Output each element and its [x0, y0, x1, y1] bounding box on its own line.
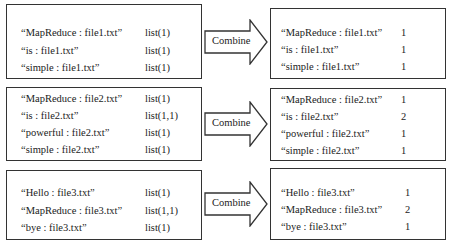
kv-value: 1: [401, 44, 406, 56]
combine-output-box-file2: “MapReduce : file2.txt” 1 “is : file2.tx…: [270, 88, 446, 161]
kv-value: list(1): [145, 222, 170, 234]
combine-label: Combine: [212, 35, 251, 46]
kv-value: list(1,1): [145, 205, 178, 217]
kv-value: 1: [401, 61, 406, 73]
kv-value: 2: [401, 111, 406, 123]
kv-key: “MapReduce : file1.txt”: [281, 27, 382, 39]
map-output-box-file1: “MapReduce : file1.txt” list(1) “is : fi…: [6, 4, 202, 79]
combine-label: Combine: [212, 197, 251, 208]
kv-value: 1: [401, 27, 406, 39]
combine-output-box-file3: “Hello : file3.txt” 1 “MapReduce : file3…: [270, 168, 446, 240]
kv-key: “powerful : file2.txt”: [21, 127, 109, 139]
kv-value: list(1): [145, 93, 170, 105]
kv-key: “Hello : file3.txt”: [281, 187, 355, 199]
kv-key: “is : file2.txt”: [21, 110, 78, 122]
kv-value: 1: [405, 221, 410, 233]
kv-key: “MapReduce : file1.txt”: [21, 27, 122, 39]
kv-key: “Hello : file3.txt”: [21, 187, 95, 199]
combine-label: Combine: [212, 117, 251, 128]
kv-value: 1: [401, 94, 406, 106]
kv-key: “bye : file3.txt”: [281, 221, 347, 233]
kv-value: 1: [405, 187, 410, 199]
kv-key: “bye : file3.txt”: [21, 222, 87, 234]
combine-arrow: Combine: [204, 19, 268, 65]
kv-key: “MapReduce : file2.txt”: [21, 93, 122, 105]
kv-key: “simple : file2.txt”: [21, 144, 99, 156]
kv-value: 2: [405, 204, 410, 216]
kv-key: “powerful : file2.txt”: [281, 128, 369, 140]
kv-value: list(1): [145, 127, 170, 139]
kv-key: “is : file1.txt”: [281, 44, 338, 56]
kv-key: “simple : file1.txt”: [21, 62, 99, 74]
kv-value: list(1,1): [145, 110, 178, 122]
combine-arrow: Combine: [204, 181, 268, 227]
kv-key: “simple : file2.txt”: [281, 145, 359, 157]
kv-key: “MapReduce : file3.txt”: [281, 204, 382, 216]
kv-value: 1: [401, 128, 406, 140]
combine-arrow: Combine: [204, 101, 268, 147]
kv-key: “MapReduce : file3.txt”: [21, 205, 122, 217]
kv-value: list(1): [145, 27, 170, 39]
kv-value: list(1): [145, 45, 170, 57]
kv-key: “MapReduce : file2.txt”: [281, 94, 382, 106]
kv-value: 1: [401, 145, 406, 157]
kv-value: list(1): [145, 144, 170, 156]
kv-key: “is : file1.txt”: [21, 45, 78, 57]
map-output-box-file3: “Hello : file3.txt” list(1) “MapReduce :…: [6, 170, 202, 240]
kv-value: list(1): [145, 187, 170, 199]
combine-output-box-file1: “MapReduce : file1.txt” 1 “is : file1.tx…: [270, 8, 446, 79]
kv-key: “simple : file1.txt”: [281, 61, 359, 73]
kv-key: “is : file2.txt”: [281, 111, 338, 123]
map-output-box-file2: “MapReduce : file2.txt” list(1) “is : fi…: [6, 87, 202, 161]
kv-value: list(1): [145, 62, 170, 74]
